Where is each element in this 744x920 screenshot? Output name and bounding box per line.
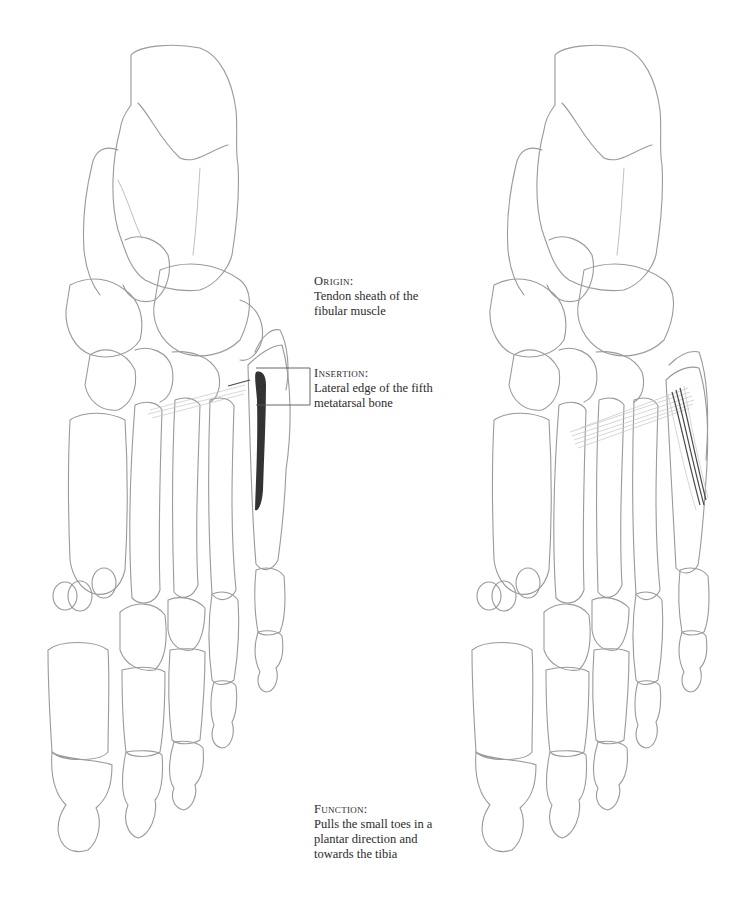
insertion-line-1: Lateral edge of the fifth — [314, 381, 433, 396]
right-calcaneus-talus — [507, 45, 662, 295]
insertion-heading: Insertion: — [314, 366, 433, 381]
origin-line-2: fibular muscle — [314, 304, 418, 319]
right-muscle-fibers — [570, 386, 708, 510]
function-line-1: Pulls the small toes in a — [314, 817, 432, 832]
anatomy-figure: Origin: Tendon sheath of the fibular mus… — [0, 0, 744, 920]
origin-heading: Origin: — [314, 274, 418, 289]
origin-line-1: Tendon sheath of the — [314, 289, 418, 304]
insertion-label: Insertion: Lateral edge of the fifth met… — [314, 366, 433, 411]
right-foot-skeleton — [0, 0, 744, 920]
function-line-2: plantar direction and — [314, 832, 432, 847]
function-heading: Function: — [314, 802, 432, 817]
right-metatarsals — [493, 367, 708, 603]
function-label: Function: Pulls the small toes in a plan… — [314, 802, 432, 862]
right-phalanges — [472, 568, 709, 852]
function-line-3: towards the tibia — [314, 847, 432, 862]
insertion-line-2: metatarsal bone — [314, 396, 433, 411]
origin-label: Origin: Tendon sheath of the fibular mus… — [314, 274, 418, 319]
